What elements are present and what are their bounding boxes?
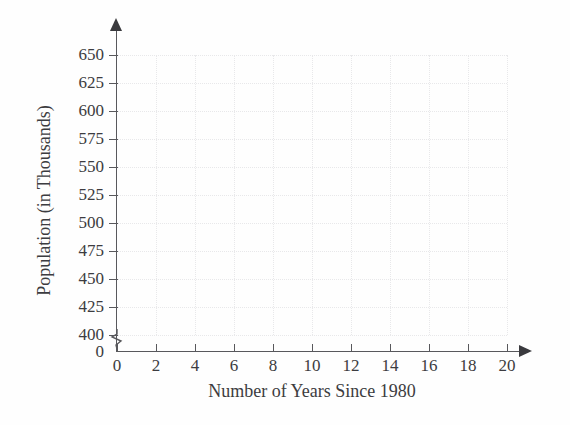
x-tick-label: 6 [214, 357, 254, 374]
y-axis-line [116, 30, 117, 352]
gridline-vertical [468, 55, 469, 335]
x-tick-label: 14 [370, 357, 410, 374]
y-axis-tick [109, 167, 118, 168]
x-axis-tick [429, 344, 430, 352]
x-axis-title: Number of Years Since 1980 [117, 381, 507, 402]
x-axis-tick [195, 344, 196, 352]
y-tick-label: 650 [60, 46, 104, 63]
gridline-vertical [429, 55, 430, 335]
y-tick-label: 400 [60, 326, 104, 343]
gridline-vertical [507, 55, 508, 335]
x-axis-line [116, 351, 520, 352]
y-tick-label: 625 [60, 74, 104, 91]
y-axis-tick [109, 307, 118, 308]
chart-figure: 4004254504755005255505756006256500 02468… [0, 0, 570, 425]
y-tick-label: 450 [60, 270, 104, 287]
x-tick-label: 4 [175, 357, 215, 374]
gridline-vertical [351, 55, 352, 335]
gridline-vertical [234, 55, 235, 335]
x-tick-label: 12 [331, 357, 371, 374]
y-tick-label: 425 [60, 298, 104, 315]
y-axis-tick [109, 83, 118, 84]
y-axis-arrow-icon [110, 18, 122, 31]
gridline-vertical [273, 55, 274, 335]
y-axis-title: Population (in Thousands) [34, 51, 55, 351]
y-axis-tick [109, 279, 118, 280]
x-axis-tick [234, 344, 235, 352]
x-axis-tick [507, 344, 508, 352]
y-axis-tick [109, 223, 118, 224]
y-axis-tick [109, 195, 118, 196]
x-tick-label: 2 [136, 357, 176, 374]
y-tick-label: 550 [60, 158, 104, 175]
y-tick-label: 475 [60, 242, 104, 259]
x-axis-tick [468, 344, 469, 352]
x-axis-tick [156, 344, 157, 352]
x-axis-tick [273, 344, 274, 352]
y-tick-label: 575 [60, 130, 104, 147]
x-tick-label: 8 [253, 357, 293, 374]
gridline-vertical [195, 55, 196, 335]
x-tick-label: 20 [487, 357, 527, 374]
x-axis-arrow-icon [519, 345, 532, 357]
x-axis-tick [390, 344, 391, 352]
y-tick-label: 500 [60, 214, 104, 231]
x-axis-tick [117, 344, 118, 352]
y-axis-tick [109, 139, 118, 140]
y-tick-label: 525 [60, 186, 104, 203]
gridline-vertical [156, 55, 157, 335]
gridline-vertical [390, 55, 391, 335]
gridline-vertical [312, 55, 313, 335]
x-axis-tick [351, 344, 352, 352]
plot-area [117, 55, 507, 335]
x-tick-label: 16 [409, 357, 449, 374]
y-axis-tick [109, 55, 118, 56]
y-axis-tick [109, 251, 118, 252]
y-axis-tick [109, 111, 118, 112]
gridline-horizontal [117, 335, 507, 336]
x-tick-label: 0 [97, 357, 137, 374]
x-tick-label: 18 [448, 357, 488, 374]
x-axis-tick [312, 344, 313, 352]
y-axis-tick [109, 335, 118, 336]
y-tick-label: 600 [60, 102, 104, 119]
x-tick-label: 10 [292, 357, 332, 374]
